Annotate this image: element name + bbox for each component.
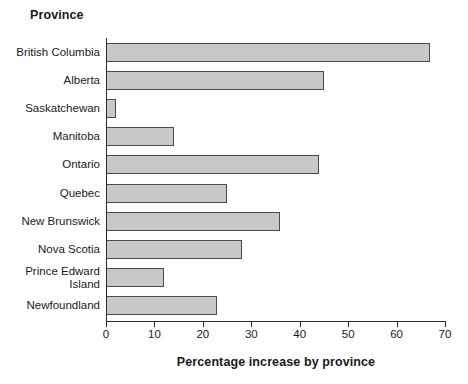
x-axis-line bbox=[106, 321, 446, 322]
x-axis-tick bbox=[445, 322, 446, 327]
x-axis-tick-label: 50 bbox=[333, 328, 363, 340]
x-axis-tick bbox=[106, 322, 107, 327]
x-axis-tick-label: 10 bbox=[139, 328, 169, 340]
bar bbox=[106, 212, 280, 231]
category-label: Quebec bbox=[0, 187, 100, 200]
x-axis-tick-label: 30 bbox=[236, 328, 266, 340]
bar bbox=[106, 155, 319, 174]
category-label: Ontario bbox=[0, 158, 100, 171]
x-axis-tick bbox=[397, 322, 398, 327]
x-axis-tick-label: 0 bbox=[91, 328, 121, 340]
x-axis-tick bbox=[203, 322, 204, 327]
category-label: Nova Scotia bbox=[0, 243, 100, 256]
x-axis-tick bbox=[300, 322, 301, 327]
bar bbox=[106, 43, 430, 62]
x-axis-tick bbox=[154, 322, 155, 327]
category-label: Newfoundland bbox=[0, 299, 100, 312]
bar bbox=[106, 296, 217, 315]
category-label: Alberta bbox=[0, 74, 100, 87]
plot-area bbox=[106, 38, 445, 320]
x-axis-tick bbox=[348, 322, 349, 327]
x-axis-tick-label: 70 bbox=[430, 328, 460, 340]
bar bbox=[106, 268, 164, 287]
x-axis-title: Percentage increase by province bbox=[106, 355, 446, 369]
bar bbox=[106, 127, 174, 146]
x-axis-tick-label: 20 bbox=[188, 328, 218, 340]
category-label: Saskatchewan bbox=[0, 102, 100, 115]
x-axis-tick bbox=[251, 322, 252, 327]
category-label-list: British ColumbiaAlbertaSaskatchewanManit… bbox=[0, 38, 100, 320]
category-label: Prince Edward Island bbox=[0, 265, 100, 291]
bar bbox=[106, 71, 324, 90]
category-label: New Brunswick bbox=[0, 215, 100, 228]
bar bbox=[106, 240, 242, 259]
y-axis-line bbox=[106, 38, 107, 321]
category-label: British Columbia bbox=[0, 46, 100, 59]
y-axis-title: Province bbox=[30, 8, 84, 22]
bar-chart: Province British ColumbiaAlbertaSaskatch… bbox=[0, 0, 468, 384]
x-axis-tick-label: 40 bbox=[285, 328, 315, 340]
bar bbox=[106, 99, 116, 118]
category-label: Manitoba bbox=[0, 130, 100, 143]
bar bbox=[106, 184, 227, 203]
x-axis-tick-label: 60 bbox=[382, 328, 412, 340]
